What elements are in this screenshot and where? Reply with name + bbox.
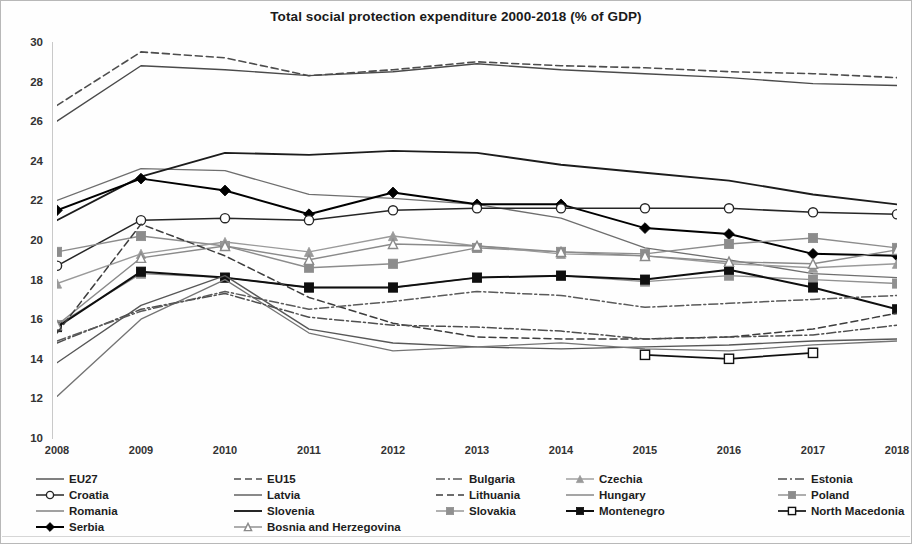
legend-item-latvia[interactable]: Latvia	[233, 487, 300, 503]
square-open-icon	[777, 505, 807, 517]
legend-label: Slovenia	[267, 505, 314, 517]
series-line	[57, 52, 897, 105]
y-tick-label: 22	[30, 194, 43, 206]
legend-label: Hungary	[599, 489, 646, 501]
series-marker	[640, 350, 649, 359]
none-icon	[565, 489, 595, 501]
series-marker	[724, 354, 733, 363]
triangle-open-icon	[233, 521, 263, 533]
triangle-icon	[565, 473, 595, 485]
legend-item-eu27[interactable]: EU27	[35, 471, 98, 487]
legend-item-montenegro[interactable]: Montenegro	[565, 503, 665, 519]
series-marker	[57, 205, 62, 216]
series-marker	[388, 283, 397, 292]
x-tick-label: 2018	[885, 444, 909, 456]
legend-label: Croatia	[69, 489, 109, 501]
series-marker	[640, 223, 651, 234]
x-axis: 2008200920102011201220132014201520162017…	[57, 444, 897, 466]
series-marker	[808, 283, 817, 292]
series-marker	[136, 231, 145, 240]
legend-label: Montenegro	[599, 505, 665, 517]
series-croatia	[57, 204, 897, 271]
legend-item-eu15[interactable]: EU15	[233, 471, 296, 487]
series-marker	[892, 279, 897, 288]
series-marker	[304, 216, 313, 225]
y-tick-label: 28	[30, 76, 43, 88]
legend-label: Serbia	[69, 521, 104, 533]
series-latvia	[57, 276, 897, 363]
legend-item-hungary[interactable]: Hungary	[565, 487, 646, 503]
series-marker	[640, 275, 649, 284]
legend-label: Latvia	[267, 489, 300, 501]
y-tick-label: 16	[30, 313, 43, 325]
y-axis: 3028262422201816141210	[1, 42, 53, 438]
series-marker	[640, 204, 649, 213]
legend-label: Romania	[69, 505, 118, 517]
series-marker	[220, 214, 229, 223]
series-marker	[388, 259, 397, 268]
y-tick-label: 30	[30, 36, 43, 48]
none-icon	[233, 473, 263, 485]
legend-item-north-macedonia[interactable]: North Macedonia	[777, 503, 904, 519]
y-tick-label: 14	[30, 353, 43, 365]
legend-item-bosnia-and-herzegovina[interactable]: Bosnia and Herzegovina	[233, 519, 401, 535]
legend-item-bulgaria[interactable]: Bulgaria	[435, 471, 515, 487]
series-marker	[808, 348, 817, 357]
legend-item-croatia[interactable]: Croatia	[35, 487, 109, 503]
legend-label: Bulgaria	[469, 473, 515, 485]
x-tick-label: 2015	[633, 444, 657, 456]
legend-item-czechia[interactable]: Czechia	[565, 471, 642, 487]
legend-item-lithuania[interactable]: Lithuania	[435, 487, 520, 503]
legend-label: Estonia	[811, 473, 853, 485]
y-tick-label: 10	[30, 432, 43, 444]
legend-label: Bosnia and Herzegovina	[267, 521, 401, 533]
series-marker	[472, 273, 481, 282]
none-icon	[233, 505, 263, 517]
circle-open-icon	[35, 489, 65, 501]
y-tick-label: 12	[30, 392, 43, 404]
series-eu15	[57, 52, 897, 105]
legend-label: North Macedonia	[811, 505, 904, 517]
x-tick-label: 2016	[717, 444, 741, 456]
series-montenegro	[57, 265, 897, 332]
series-line	[57, 244, 897, 325]
x-tick-label: 2013	[465, 444, 489, 456]
series-marker	[556, 204, 565, 213]
x-tick-label: 2012	[381, 444, 405, 456]
series-marker	[304, 283, 313, 292]
legend-item-slovakia[interactable]: Slovakia	[435, 503, 516, 519]
series-line	[57, 276, 897, 363]
chart-title: Total social protection expenditure 2000…	[1, 9, 911, 24]
legend-item-romania[interactable]: Romania	[35, 503, 118, 519]
y-tick-label: 20	[30, 234, 43, 246]
series-marker	[57, 261, 62, 270]
series-line	[57, 280, 897, 397]
x-tick-label: 2017	[801, 444, 825, 456]
legend-item-slovenia[interactable]: Slovenia	[233, 503, 314, 519]
series-hungary	[57, 280, 897, 397]
legend-label: Lithuania	[469, 489, 520, 501]
none-icon	[435, 473, 465, 485]
legend-item-estonia[interactable]: Estonia	[777, 471, 853, 487]
series-marker	[892, 305, 897, 314]
legend-item-poland[interactable]: Poland	[777, 487, 849, 503]
series-line	[57, 208, 897, 265]
none-icon	[233, 489, 263, 501]
chart-figure: Total social protection expenditure 2000…	[0, 0, 912, 544]
legend-item-serbia[interactable]: Serbia	[35, 519, 104, 535]
series-marker	[556, 271, 565, 280]
none-icon	[777, 473, 807, 485]
diamond-filled-icon	[35, 521, 65, 533]
legend-label: Czechia	[599, 473, 642, 485]
plot-area	[57, 42, 897, 438]
series-marker	[388, 206, 397, 215]
series-marker	[220, 185, 231, 196]
square-filled-icon	[565, 505, 595, 517]
series-marker	[388, 187, 399, 198]
series-marker	[724, 229, 735, 240]
square-icon	[435, 505, 465, 517]
series-marker	[724, 239, 733, 248]
series-marker	[808, 208, 817, 217]
y-tick-label: 24	[30, 155, 43, 167]
legend-label: EU27	[69, 473, 98, 485]
